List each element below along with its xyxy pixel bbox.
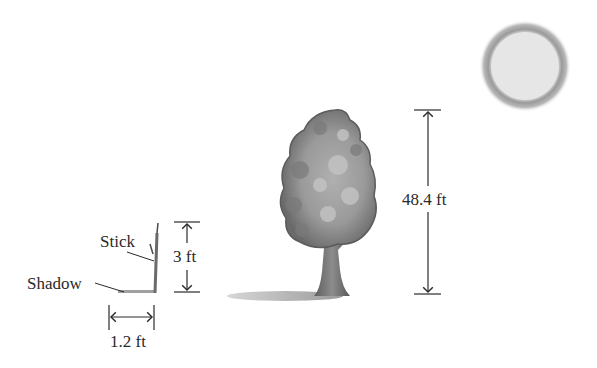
diagram-canvas: 48.4 ft Stick Shadow 3 ft 1.2 ft (0, 0, 597, 368)
stick-label: Stick (100, 232, 135, 251)
tree-height-label: 48.4 ft (402, 190, 447, 209)
shadow-length-label: 1.2 ft (110, 332, 146, 351)
tree-height-dimension: 48.4 ft (402, 110, 447, 294)
shadow-length-dimension: 1.2 ft (109, 305, 154, 351)
tree-foliage (280, 110, 376, 248)
tree (280, 110, 376, 296)
stick-height-label: 3 ft (173, 247, 196, 266)
sun (479, 20, 571, 112)
stick-height-dimension: 3 ft (173, 222, 200, 292)
shadow-label: Shadow (27, 274, 83, 293)
stick (150, 223, 158, 293)
